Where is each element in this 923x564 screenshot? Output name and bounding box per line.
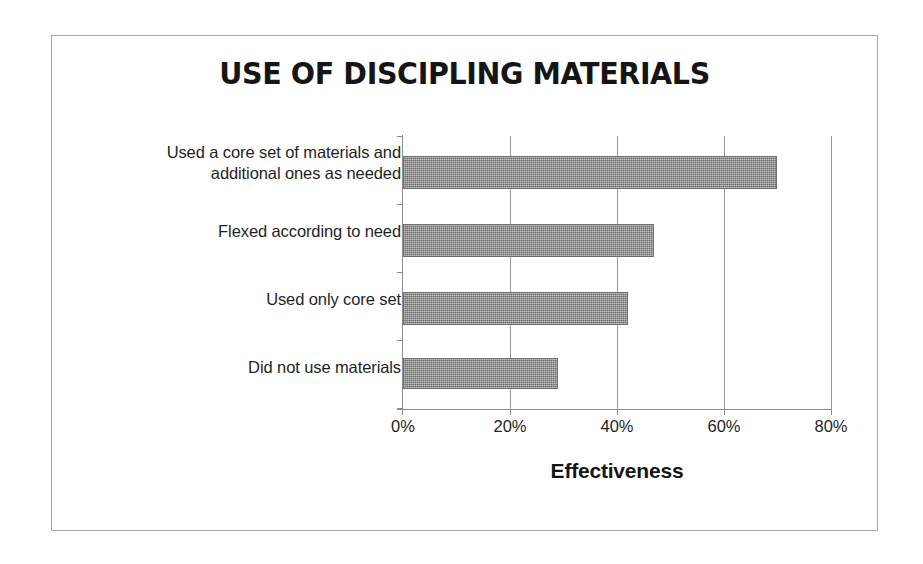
x-tick-mark-0 — [402, 409, 403, 415]
x-tick-label-60: 60% — [707, 417, 740, 436]
bar-1 — [403, 224, 654, 257]
category-label-1: Flexed according to need — [62, 221, 401, 242]
x-tick-label-20: 20% — [493, 417, 526, 436]
category-label-0-line-1: additional ones as needed — [62, 163, 401, 184]
x-tick-mark-60 — [724, 409, 725, 415]
y-tick-mark-4 — [397, 408, 403, 409]
bar-3 — [403, 358, 558, 389]
category-axis-labels: Used a core set of materials and additio… — [62, 136, 401, 409]
y-tick-mark-0 — [397, 136, 403, 137]
chart-area: Used a core set of materials and additio… — [52, 36, 877, 530]
category-label-2: Used only core set — [62, 289, 401, 310]
y-tick-mark-3 — [397, 340, 403, 341]
x-axis-title: Effectiveness — [403, 459, 831, 483]
x-axis-line — [397, 409, 831, 410]
x-tick-mark-20 — [510, 409, 511, 415]
plot-area — [403, 136, 831, 409]
category-label-0: Used a core set of materials and additio… — [62, 142, 401, 184]
y-tick-mark-1 — [397, 204, 403, 205]
x-tick-label-0: 0% — [391, 417, 415, 436]
bar-2 — [403, 292, 628, 325]
x-axis-tick-labels: 0% 20% 40% 60% 80% — [403, 417, 831, 443]
scanned-page: USE OF DISCIPLING MATERIALS Used a core … — [0, 0, 923, 564]
x-tick-label-40: 40% — [600, 417, 633, 436]
bar-0 — [403, 156, 777, 189]
category-label-0-line-0: Used a core set of materials and — [62, 142, 401, 163]
x-tick-mark-80 — [831, 409, 832, 415]
category-label-3-line-0: Did not use materials — [62, 357, 401, 378]
x-tick-mark-40 — [617, 409, 618, 415]
chart-frame-border: USE OF DISCIPLING MATERIALS Used a core … — [51, 35, 878, 531]
gridline-80 — [831, 136, 832, 409]
category-label-1-line-0: Flexed according to need — [62, 221, 401, 242]
category-label-3: Did not use materials — [62, 357, 401, 378]
y-tick-mark-2 — [397, 272, 403, 273]
category-label-2-line-0: Used only core set — [62, 289, 401, 310]
x-tick-label-80: 80% — [814, 417, 847, 436]
